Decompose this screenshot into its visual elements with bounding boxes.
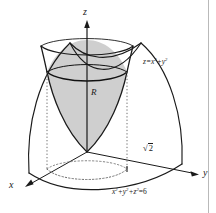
paraboloid-eq-part2: +y bbox=[157, 57, 165, 66]
axis-label-y: y bbox=[203, 168, 207, 178]
sqrt2-label: √2 bbox=[143, 143, 153, 153]
figure-container: z y x R z=x2+y2 √2 x2+y2+z2=6 bbox=[0, 0, 216, 213]
axis-label-x: x bbox=[9, 180, 13, 190]
paraboloid-eq-part1: z=x bbox=[143, 57, 154, 66]
axis-x-line bbox=[32, 152, 87, 183]
projection-ellipse-dotted bbox=[47, 169, 127, 180]
axis-z-arrowhead bbox=[84, 20, 90, 28]
axis-label-z: z bbox=[83, 7, 87, 17]
region-label-r: R bbox=[91, 88, 97, 97]
page-edge-line bbox=[208, 0, 209, 213]
axis-y-arrowhead bbox=[191, 171, 200, 176]
axis-x-arrowhead bbox=[25, 180, 34, 187]
sphere-bottom-rim bbox=[29, 164, 182, 190]
axis-y-line bbox=[87, 152, 192, 173]
sphere-equation-label: x2+y2+z2=6 bbox=[112, 188, 147, 196]
sphere-eq-part2: +y bbox=[118, 187, 126, 196]
solid-region-figure bbox=[0, 0, 216, 213]
radicand-value: 2 bbox=[148, 143, 153, 153]
sphere-eq-part4: =6 bbox=[139, 187, 147, 196]
paraboloid-eq-exp2: 2 bbox=[165, 57, 167, 62]
paraboloid-equation-label: z=x2+y2 bbox=[143, 58, 167, 66]
